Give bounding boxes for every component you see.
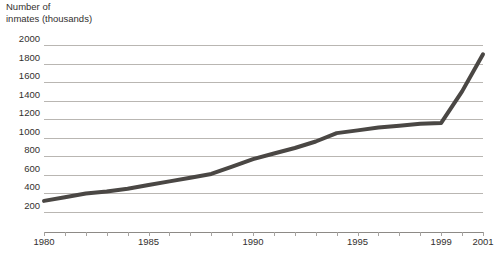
- series-line-number-of-inmates: [44, 54, 483, 201]
